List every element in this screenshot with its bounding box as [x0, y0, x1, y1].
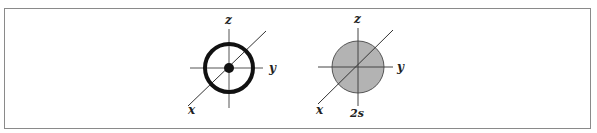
nucleus-dot	[224, 63, 234, 73]
left-diagram: z y x	[187, 13, 277, 117]
orbital-figure: z y x z y x 2s	[0, 0, 597, 133]
right-diagram: z y x 2s	[315, 12, 405, 120]
orbital-label: 2s	[349, 107, 364, 120]
z-axis-label: z	[224, 13, 233, 27]
z-axis-label: z	[353, 12, 362, 26]
y-axis-label: y	[396, 60, 405, 74]
x-axis-label: x	[315, 103, 324, 117]
y-axis-label: y	[268, 61, 277, 75]
x-axis-label: x	[187, 103, 196, 117]
